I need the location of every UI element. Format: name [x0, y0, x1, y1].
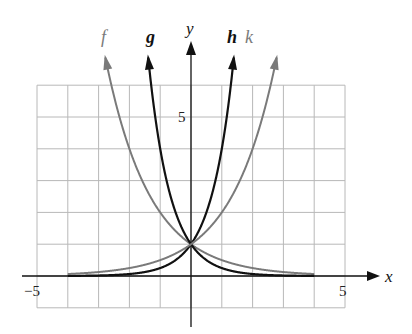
curve-k — [68, 58, 277, 274]
axes — [22, 41, 380, 327]
curve-label-h: h — [227, 27, 237, 47]
y-axis-label: y — [184, 19, 194, 38]
curve-label-k: k — [245, 27, 254, 47]
x-tick-label: −5 — [24, 283, 40, 299]
x-axis-arrow-icon — [367, 271, 380, 281]
y-axis-arrow-icon — [186, 41, 196, 55]
curve-f-arrow-icon — [103, 55, 112, 71]
x-tick-label: 5 — [339, 283, 347, 299]
curve-g-arrow-icon — [145, 55, 154, 70]
x-axis-label: x — [384, 267, 393, 286]
curve-f — [105, 58, 314, 274]
curve-k-arrow-icon — [270, 55, 279, 71]
curve-h-arrow-icon — [228, 55, 237, 70]
exponential-function-graph: xy−555fghk — [0, 0, 412, 334]
y-tick-label: 5 — [178, 109, 186, 125]
labels: xy−555fghk — [24, 19, 393, 299]
curve-label-f: f — [101, 27, 109, 47]
curve-label-g: g — [145, 27, 155, 47]
